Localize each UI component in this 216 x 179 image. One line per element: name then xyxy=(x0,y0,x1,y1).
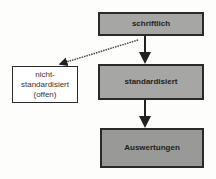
node-label: schriftlich xyxy=(132,19,170,29)
node-auswertungen: Auswertungen xyxy=(100,128,204,168)
node-standardisiert: standardisiert xyxy=(98,64,204,100)
node-label: nicht- standardisiert (offen) xyxy=(21,70,69,100)
node-label: Auswertungen xyxy=(124,143,180,153)
arrow-schriftlich-to-nicht-standardisiert xyxy=(60,40,138,64)
node-label: standardisiert xyxy=(125,77,178,87)
node-schriftlich: schriftlich xyxy=(98,12,204,36)
node-nicht-standardisiert: nicht- standardisiert (offen) xyxy=(12,66,78,103)
